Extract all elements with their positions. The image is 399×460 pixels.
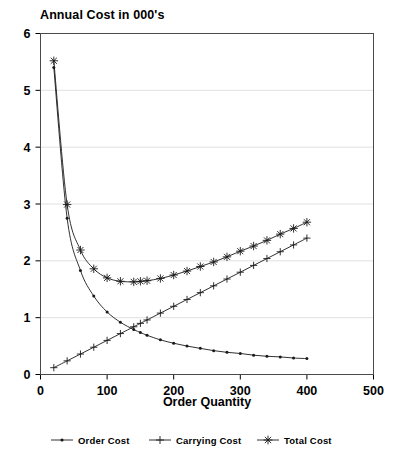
data-point-plus — [197, 289, 204, 296]
data-point-dot — [60, 438, 63, 441]
data-point-dot — [119, 321, 122, 324]
x-tick-label: 500 — [363, 384, 384, 398]
data-point-plus — [90, 344, 97, 351]
y-tick-label: 1 — [24, 311, 31, 325]
chart-svg: 0123456 0100200300400500 Order Quantity … — [0, 0, 399, 460]
data-point-dot — [92, 295, 95, 298]
data-point-plus — [104, 337, 111, 344]
x-axis-ticks — [41, 375, 374, 380]
data-point-dot — [139, 331, 142, 334]
data-point-dot — [66, 217, 69, 220]
data-point-plus — [290, 241, 297, 248]
data-point-dot — [159, 338, 162, 341]
data-point-asterisk — [136, 277, 144, 285]
data-point-asterisk — [90, 265, 98, 273]
y-tick-label: 2 — [24, 254, 31, 268]
data-point-dot — [106, 310, 109, 313]
chart-legend: Order CostCarrying CostTotal Cost — [51, 435, 332, 446]
y-axis-tick-labels: 0123456 — [24, 27, 31, 382]
data-point-asterisk — [263, 236, 271, 244]
series-order-cost — [52, 66, 308, 360]
data-point-dot — [239, 352, 242, 355]
data-point-plus — [130, 323, 137, 330]
x-axis-title: Order Quantity — [163, 395, 251, 409]
legend-label: Order Cost — [78, 435, 130, 446]
data-point-asterisk — [63, 200, 71, 208]
legend-label: Carrying Cost — [176, 435, 242, 446]
data-point-asterisk — [249, 242, 257, 250]
data-point-asterisk — [264, 436, 273, 445]
data-point-dot — [292, 357, 295, 360]
data-point-plus — [50, 364, 57, 371]
data-point-dot — [79, 269, 82, 272]
plot-area: 0123456 0100200300400500 Order Quantity … — [0, 0, 399, 460]
data-point-dot — [279, 355, 282, 358]
data-point-dot — [265, 355, 268, 358]
data-point-asterisk — [143, 277, 151, 285]
gridlines — [41, 90, 374, 317]
data-point-asterisk — [223, 253, 231, 261]
series-line — [54, 61, 307, 282]
x-tick-label: 100 — [97, 384, 118, 398]
data-point-asterisk — [183, 267, 191, 275]
data-point-plus — [64, 357, 71, 364]
series-line — [54, 68, 307, 359]
data-point-asterisk — [170, 271, 178, 279]
y-tick-label: 3 — [24, 198, 31, 212]
data-point-plus — [157, 310, 164, 317]
y-axis-ticks — [36, 34, 41, 375]
data-point-plus — [210, 282, 217, 289]
data-point-plus — [156, 436, 164, 444]
data-point-asterisk — [50, 57, 58, 65]
data-point-asterisk — [116, 277, 124, 285]
data-point-plus — [137, 320, 144, 327]
data-point-asterisk — [236, 247, 244, 255]
data-point-asterisk — [103, 274, 111, 282]
data-point-plus — [303, 235, 310, 242]
data-point-dot — [186, 345, 189, 348]
data-point-dot — [225, 351, 228, 354]
data-point-asterisk — [303, 218, 311, 226]
x-tick-label: 0 — [37, 384, 44, 398]
data-point-plus — [170, 303, 177, 310]
legend-item-order-cost[interactable]: Order Cost — [51, 435, 130, 446]
data-point-asterisk — [130, 278, 138, 286]
data-point-dot — [172, 342, 175, 345]
data-point-asterisk — [196, 262, 204, 270]
legend-item-carrying-cost[interactable]: Carrying Cost — [149, 435, 242, 446]
y-tick-label: 5 — [24, 84, 31, 98]
data-point-dot — [199, 347, 202, 350]
data-point-asterisk — [289, 224, 297, 232]
series-line — [54, 238, 307, 368]
legend-item-total-cost[interactable]: Total Cost — [257, 435, 332, 446]
data-point-asterisk — [76, 246, 84, 254]
data-point-plus — [77, 350, 84, 357]
data-point-plus — [223, 275, 230, 282]
data-point-dot — [212, 349, 215, 352]
data-point-plus — [250, 262, 257, 269]
data-series-group — [50, 57, 311, 372]
y-tick-label: 0 — [24, 368, 31, 382]
data-point-asterisk — [276, 230, 284, 238]
data-point-dot — [305, 357, 308, 360]
series-carrying-cost — [50, 235, 310, 372]
x-tick-label: 400 — [296, 384, 317, 398]
data-point-plus — [237, 269, 244, 276]
data-point-dot — [146, 334, 149, 337]
data-point-asterisk — [156, 274, 164, 282]
y-tick-label: 4 — [24, 141, 31, 155]
data-point-dot — [252, 354, 255, 357]
legend-label: Total Cost — [284, 435, 332, 446]
y-tick-label: 6 — [24, 27, 31, 41]
data-point-plus — [183, 296, 190, 303]
data-point-plus — [277, 248, 284, 255]
chart-container: Annual Cost in 000's 0123456 01002003004… — [0, 0, 399, 460]
series-total-cost — [50, 57, 311, 286]
data-point-plus — [117, 330, 124, 337]
data-point-asterisk — [209, 258, 217, 266]
